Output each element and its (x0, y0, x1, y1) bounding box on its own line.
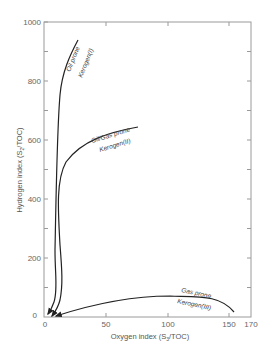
x-tick-170: 170 (244, 320, 258, 329)
y-tick-800: 800 (28, 77, 42, 86)
svg-text:Kerogen(I): Kerogen(I) (76, 47, 95, 78)
svg-text:Kerogen(III): Kerogen(III) (177, 297, 212, 312)
plot-frame (44, 22, 251, 317)
kerogen-type-1-curve (48, 40, 78, 314)
kerogen-type-2-curve (52, 127, 138, 316)
y-axis-label: Hydrogen index (S2/TOC) (15, 127, 25, 213)
type-2-annotation: Oil/Gas prone Kerogen(II) (90, 125, 131, 153)
x-axis-label: Oxygen index (S3/TOC) (111, 332, 190, 342)
x-tick-100: 100 (161, 320, 175, 329)
y-tick-1000: 1000 (23, 18, 41, 27)
type-3-annotation: Gas prone Kerogen(III) (177, 286, 213, 312)
y-tick-600: 600 (28, 136, 42, 145)
x-axis-ticks (106, 22, 229, 317)
van-krevelen-chart: 1000 800 600 400 200 0 0 50 100 150 170 … (0, 0, 268, 355)
y-tick-0: 0 (33, 311, 38, 320)
x-tick-0: 0 (43, 320, 48, 329)
y-tick-400: 400 (28, 195, 42, 204)
type-1-annotation: Oil prone Kerogen(I) (64, 45, 95, 79)
x-tick-50: 50 (102, 320, 111, 329)
y-tick-200: 200 (28, 254, 42, 263)
x-tick-150: 150 (222, 320, 236, 329)
